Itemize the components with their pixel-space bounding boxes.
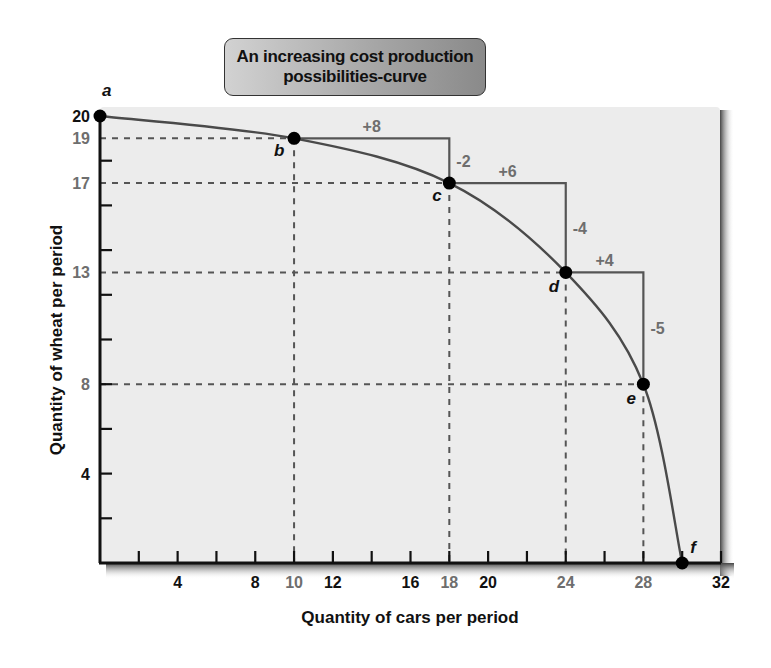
y-tick-label: 8 <box>81 376 90 393</box>
point-a <box>94 110 107 123</box>
x-tick-label: 24 <box>557 574 575 591</box>
y-tick-label: 17 <box>72 175 90 192</box>
delta-x-label: +6 <box>498 163 516 180</box>
x-tick-label: 18 <box>440 574 458 591</box>
shadow-right <box>720 110 734 576</box>
delta-y-label: -5 <box>650 320 664 337</box>
delta-x-label: +4 <box>595 252 613 269</box>
x-tick-label: 28 <box>634 574 652 591</box>
y-axis-tick-labels: 2019171384 <box>72 108 90 483</box>
delta-y-label: -4 <box>573 220 587 237</box>
y-tick-label: 13 <box>72 264 90 281</box>
x-tick-label: 32 <box>712 574 730 591</box>
y-tick-label: 19 <box>72 130 90 147</box>
point-c <box>443 177 456 190</box>
ppc-chart: +8-2+6-4+4-5 481012161820242832 20191713… <box>0 0 771 668</box>
x-axis-tick-labels: 481012161820242832 <box>173 574 730 591</box>
point-b <box>288 132 301 145</box>
x-axis-label: Quantity of cars per period <box>301 608 518 627</box>
y-axis-label: Quantity of wheat per period <box>47 225 66 455</box>
point-label-e: e <box>626 389 635 408</box>
point-d <box>559 266 572 279</box>
delta-y-label: -2 <box>456 153 470 170</box>
point-f <box>676 557 689 570</box>
plot-area <box>100 107 720 563</box>
x-tick-label: 10 <box>285 574 303 591</box>
y-tick-label: 20 <box>72 108 90 125</box>
x-tick-label: 12 <box>324 574 342 591</box>
point-label-a: a <box>102 81 111 100</box>
point-label-b: b <box>274 141 284 160</box>
point-label-c: c <box>432 186 442 205</box>
x-tick-label: 8 <box>251 574 260 591</box>
x-tick-label: 16 <box>402 574 420 591</box>
y-tick-label: 4 <box>81 466 90 483</box>
x-tick-label: 4 <box>173 574 182 591</box>
delta-x-label: +8 <box>363 118 381 135</box>
point-e <box>637 378 650 391</box>
point-label-d: d <box>549 277 560 296</box>
x-tick-label: 20 <box>479 574 497 591</box>
